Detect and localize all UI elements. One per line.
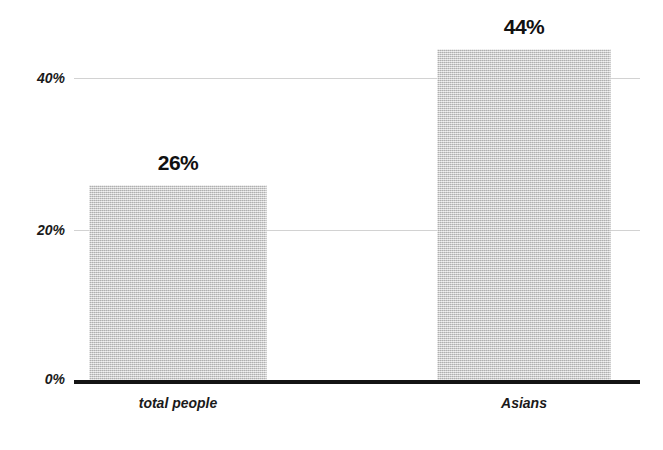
bar-asians[interactable] xyxy=(437,49,611,382)
bar-value-label-total-people: 26% xyxy=(89,152,267,173)
bar-value-label-asians: 44% xyxy=(437,16,611,37)
bar-chart: 40% 20% 0% 26% 44% total people Asians xyxy=(0,0,663,450)
bar-total-people[interactable] xyxy=(89,185,267,382)
y-axis-tick-label-20: 20% xyxy=(5,223,65,237)
y-axis-tick-label-40: 40% xyxy=(5,71,65,85)
x-axis-category-label-asians: Asians xyxy=(437,396,611,410)
x-axis-category-label-total-people: total people xyxy=(89,396,267,410)
x-axis-baseline xyxy=(74,380,640,384)
y-axis-tick-label-0: 0% xyxy=(5,372,65,386)
